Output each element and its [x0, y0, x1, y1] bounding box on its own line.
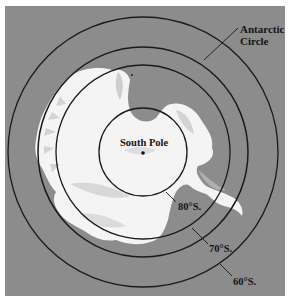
lat-70s-label: 70°S.	[209, 243, 233, 254]
antarctic-circle-label-line1: Antarctic	[240, 23, 285, 35]
antarctic-circle-label-line2: Circle	[240, 35, 269, 47]
south-pole-dot	[141, 151, 145, 155]
lat-80s-label: 80°S.	[178, 201, 202, 212]
south-pole-label: South Pole	[120, 137, 168, 148]
antarctica-map: Antarctic Circle South Pole 80°S. 70°S. …	[0, 0, 292, 303]
lat-60s-label: 60°S.	[233, 276, 257, 287]
